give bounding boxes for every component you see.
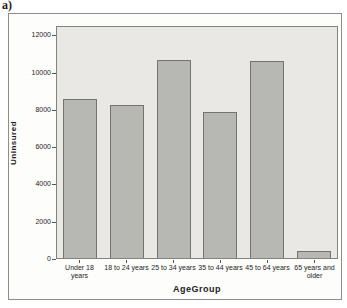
bar-18 to 24 years	[110, 105, 144, 258]
bar-slot	[244, 27, 291, 258]
y-tick-mark	[52, 147, 56, 148]
bar-25 to 34 years	[157, 60, 191, 258]
bar-slot	[57, 27, 104, 258]
y-tick-mark	[52, 35, 56, 36]
plot-area	[56, 26, 338, 259]
y-tick-label: 2000	[9, 218, 51, 226]
figure-label: a)	[2, 0, 12, 13]
x-tick-mark	[267, 260, 268, 263]
x-tick-mark	[126, 260, 127, 263]
y-tick-label: 4000	[9, 180, 51, 188]
y-tick-mark	[52, 184, 56, 185]
bar-65 years and older	[297, 251, 331, 258]
bar-Under 18 years	[63, 99, 97, 258]
y-tick-mark	[52, 73, 56, 74]
y-tick-label: 0	[9, 255, 51, 263]
bar-slot	[197, 27, 244, 258]
x-tick-label: 35 to 44 years	[197, 260, 244, 280]
bar-45 to 64 years	[250, 61, 284, 258]
bars-container	[57, 27, 337, 258]
x-tick-label: 25 to 34 years	[150, 260, 197, 280]
x-tick-label: 65 years and older	[291, 260, 338, 280]
y-tick-label: 6000	[9, 143, 51, 151]
x-tick-label: 18 to 24 years	[103, 260, 150, 280]
x-axis-tick-labels: Under 18 years18 to 24 years25 to 34 yea…	[56, 260, 338, 280]
y-tick-mark	[52, 110, 56, 111]
chart-page: a) Uninsured 020004000600080001000012000…	[0, 0, 347, 308]
x-tick-mark	[173, 260, 174, 263]
x-tick-label: Under 18 years	[56, 260, 103, 280]
chart-figure: Uninsured 020004000600080001000012000 Un…	[8, 13, 342, 300]
y-tick-mark	[52, 222, 56, 223]
x-axis-title: AgeGroup	[56, 284, 338, 294]
bar-slot	[290, 27, 337, 258]
y-tick-label: 8000	[9, 106, 51, 114]
y-tick-label: 12000	[9, 31, 51, 39]
bar-slot	[150, 27, 197, 258]
y-tick-label: 10000	[9, 69, 51, 77]
x-tick-mark	[79, 260, 80, 263]
x-tick-label: 45 to 64 years	[244, 260, 291, 280]
bar-slot	[104, 27, 151, 258]
x-tick-mark	[220, 260, 221, 263]
bar-35 to 44 years	[203, 112, 237, 258]
x-tick-mark	[314, 260, 315, 263]
